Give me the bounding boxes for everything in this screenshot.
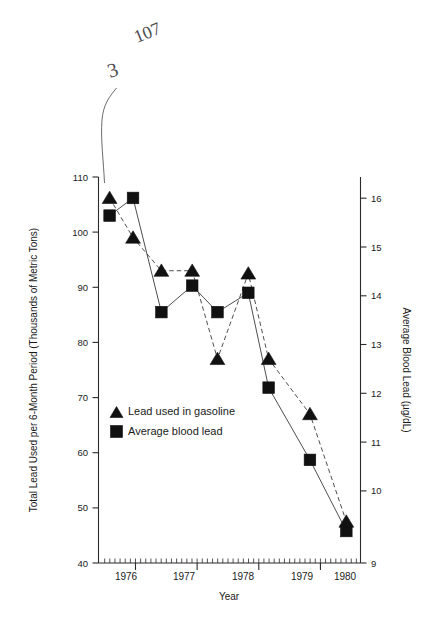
annotation-107: 107 (131, 18, 164, 47)
data-point-lead (126, 231, 141, 243)
data-point-blood-lead (127, 192, 139, 204)
annotation-3: 3 (104, 58, 120, 82)
x-axis-title: Year (219, 591, 240, 602)
data-point-blood-lead (243, 287, 255, 299)
right-tick-16: 16 (371, 193, 382, 204)
chart-figure: 107 3 110 100 90 80 70 60 50 40 (0, 0, 434, 624)
x-axis-tick-labels: 1976 1977 1978 1979 1980 (115, 571, 357, 582)
x-tick-1980: 1980 (334, 571, 357, 582)
data-point-lead (241, 267, 256, 279)
data-point-blood-lead (212, 306, 224, 318)
left-axis-ticks (93, 177, 99, 563)
right-tick-13: 13 (371, 339, 382, 350)
left-tick-110: 110 (73, 172, 88, 183)
legend-square-icon (111, 426, 123, 438)
x-tick-1979: 1979 (291, 571, 314, 582)
right-tick-9: 9 (371, 558, 376, 569)
right-axis-tick-labels: 16 15 14 13 12 11 10 9 (371, 193, 382, 569)
data-point-lead (102, 191, 117, 203)
data-point-lead (261, 352, 276, 364)
data-point-blood-lead (186, 280, 198, 292)
x-axis-minor-ticks (105, 559, 357, 564)
right-tick-12: 12 (371, 388, 382, 399)
right-tick-15: 15 (371, 242, 382, 253)
data-point-blood-lead (104, 210, 116, 222)
x-tick-1978: 1978 (232, 571, 255, 582)
series-line-average-blood-lead (110, 198, 347, 531)
data-point-lead (154, 264, 169, 276)
y-axis-title: Total Lead Used per 6-Month Period (Thou… (28, 228, 39, 512)
left-tick-40: 40 (77, 558, 88, 569)
data-point-lead (185, 264, 200, 276)
legend-label-average-blood-lead: Average blood lead (128, 425, 223, 437)
data-point-lead (303, 407, 318, 419)
x-tick-1977: 1977 (173, 571, 196, 582)
legend-triangle-icon (110, 407, 123, 418)
left-tick-100: 100 (72, 227, 88, 238)
x-axis-major-ticks (135, 563, 320, 570)
legend-label-lead-used-in-gasoline: Lead used in gasoline (128, 405, 235, 417)
right-axis-ticks (361, 198, 367, 563)
series-points-lead-used-in-gasoline (102, 191, 354, 527)
lead-vs-blood-lead-chart: 107 3 110 100 90 80 70 60 50 40 (0, 0, 434, 624)
series-points-average-blood-lead (104, 192, 352, 537)
chart-legend: Lead used in gasoline Average blood lead (110, 405, 235, 437)
left-tick-90: 90 (77, 282, 88, 293)
left-axis-tick-labels: 110 100 90 80 70 60 50 40 (72, 172, 88, 569)
left-tick-60: 60 (77, 447, 88, 458)
data-point-blood-lead (263, 382, 275, 394)
right-tick-14: 14 (371, 290, 382, 301)
left-tick-70: 70 (77, 392, 88, 403)
data-point-blood-lead (304, 454, 316, 466)
annotation-leader-line (102, 88, 117, 183)
left-tick-80: 80 (77, 337, 88, 348)
data-point-lead (210, 352, 225, 364)
data-point-blood-lead (156, 306, 168, 318)
x-tick-1976: 1976 (115, 571, 138, 582)
right-tick-11: 11 (371, 437, 381, 448)
y2-axis-title: Average Blood Lead (µg/dL) (401, 307, 412, 432)
left-tick-50: 50 (77, 502, 88, 513)
right-tick-10: 10 (371, 485, 382, 496)
